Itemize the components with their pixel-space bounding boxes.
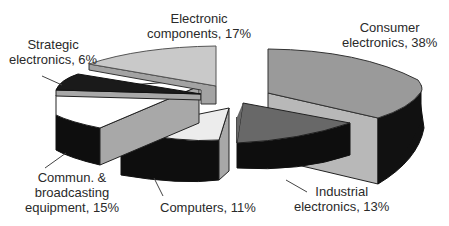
label-line: Commun. & [25, 170, 119, 185]
label-industrial-electronics: Industrial electronics, 13% [294, 184, 389, 214]
label-commun-broadcasting: Commun. & broadcasting equipment, 15% [25, 170, 119, 215]
label-line: Computers, 11% [160, 200, 256, 215]
leader-line-commun [45, 153, 66, 168]
label-line: equipment, 15% [25, 200, 119, 215]
label-line: Electronic [147, 11, 251, 26]
label-computers: Computers, 11% [160, 200, 256, 215]
leader-line-strategic [42, 76, 62, 85]
label-line: Industrial [294, 184, 389, 199]
pie-chart: Electronic components, 17% Consumer elec… [0, 0, 449, 226]
label-line: Strategic [9, 37, 97, 52]
label-line: components, 17% [147, 26, 251, 41]
label-consumer-electronics: Consumer electronics, 38% [342, 20, 437, 50]
label-line: electronics, 38% [342, 35, 437, 50]
label-line: broadcasting [25, 185, 119, 200]
label-line: electronics, 13% [294, 199, 389, 214]
label-strategic-electronics: Strategic electronics, 6% [9, 37, 97, 67]
label-line: Consumer [342, 20, 437, 35]
label-line: electronics, 6% [9, 52, 97, 67]
label-electronic-components: Electronic components, 17% [147, 11, 251, 41]
